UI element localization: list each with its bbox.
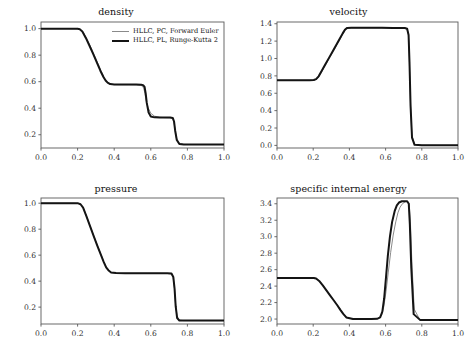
y-tick-label: 2.6 — [260, 265, 272, 274]
legend-label: HLLC, PL, Runge-Kutta 2 — [133, 35, 218, 45]
x-tick-label: 0.8 — [181, 153, 193, 162]
y-tick-label: 0.0 — [260, 141, 272, 150]
x-tick-label: 0.4 — [108, 329, 120, 338]
y-tick-label: 1.2 — [260, 37, 272, 46]
legend: HLLC, PC, Forward Euler HLLC, PL, Runge-… — [112, 27, 219, 45]
x-tick-label: 0.4 — [108, 153, 120, 162]
data-series-line — [277, 201, 458, 319]
y-tick-label: 1.0 — [24, 24, 36, 33]
data-series-line — [41, 29, 224, 145]
panel-specific-internal-energy: specific internal energy 0.00.20.40.60.8… — [232, 177, 465, 353]
x-tick-label: 0.4 — [343, 153, 355, 162]
x-tick-label: 0.6 — [380, 329, 392, 338]
y-tick-label: 2.4 — [260, 282, 272, 291]
x-tick-label: 1.0 — [218, 153, 230, 162]
x-tick-label: 0.0 — [35, 329, 47, 338]
y-tick-label: 0.2 — [24, 130, 36, 139]
y-tick-label: 0.6 — [24, 77, 36, 86]
y-tick-label: 1.0 — [24, 199, 36, 208]
x-tick-label: 0.6 — [145, 329, 157, 338]
panel-pressure: pressure 0.00.20.40.60.81.00.20.40.60.81… — [0, 177, 232, 353]
y-tick-label: 2.8 — [260, 249, 272, 258]
y-tick-label: 1.0 — [260, 54, 272, 63]
x-tick-label: 0.8 — [416, 153, 428, 162]
plot-svg-velocity: 0.00.20.40.60.81.00.00.20.40.60.81.01.21… — [232, 0, 465, 177]
y-tick-label: 0.8 — [24, 225, 36, 234]
data-series-line — [41, 29, 224, 145]
y-tick-label: 0.4 — [24, 104, 36, 113]
plot-svg-specific-internal-energy: 0.00.20.40.60.81.02.02.22.42.62.83.03.23… — [232, 177, 465, 353]
x-tick-label: 0.6 — [380, 153, 392, 162]
figure-grid: density 0.00.20.40.60.81.00.20.40.60.81.… — [0, 0, 465, 353]
data-series-line — [277, 28, 458, 145]
plot-specific-internal-energy: 0.00.20.40.60.81.02.02.22.42.62.83.03.23… — [232, 177, 465, 353]
panel-density: density 0.00.20.40.60.81.00.20.40.60.81.… — [0, 0, 232, 177]
x-tick-label: 0.0 — [35, 153, 47, 162]
data-series-line — [41, 203, 224, 320]
x-tick-label: 1.0 — [452, 329, 464, 338]
x-tick-label: 0.2 — [307, 329, 319, 338]
x-tick-label: 1.0 — [452, 153, 464, 162]
x-tick-label: 1.0 — [218, 329, 230, 338]
x-tick-label: 0.4 — [343, 329, 355, 338]
x-tick-label: 0.2 — [307, 153, 319, 162]
x-tick-label: 0.6 — [145, 153, 157, 162]
legend-swatch-line-icon — [112, 40, 129, 42]
y-tick-label: 1.4 — [260, 19, 272, 28]
x-tick-label: 0.0 — [271, 329, 283, 338]
y-tick-label: 0.4 — [260, 106, 272, 115]
data-series-line — [277, 201, 458, 320]
y-tick-label: 0.2 — [260, 124, 272, 133]
y-tick-label: 0.4 — [24, 277, 36, 286]
plot-velocity: 0.00.20.40.60.81.00.00.20.40.60.81.01.21… — [232, 0, 465, 177]
panel-velocity: velocity 0.00.20.40.60.81.00.00.20.40.60… — [232, 0, 465, 177]
y-tick-label: 2.0 — [260, 315, 272, 324]
y-tick-label: 3.0 — [260, 232, 272, 241]
data-series-line — [41, 203, 224, 320]
legend-entry: HLLC, PL, Runge-Kutta 2 — [112, 36, 219, 45]
y-tick-label: 0.8 — [260, 72, 272, 81]
plot-pressure: 0.00.20.40.60.81.00.20.40.60.81.0 — [0, 177, 232, 353]
y-tick-label: 3.4 — [260, 199, 272, 208]
data-series-line — [277, 28, 458, 145]
plot-svg-pressure: 0.00.20.40.60.81.00.20.40.60.81.0 — [0, 177, 232, 353]
y-tick-label: 2.2 — [260, 298, 272, 307]
y-tick-label: 0.6 — [24, 251, 36, 260]
x-tick-label: 0.8 — [416, 329, 428, 338]
y-tick-label: 0.2 — [24, 303, 36, 312]
y-tick-label: 3.2 — [260, 216, 272, 225]
y-tick-label: 0.8 — [24, 51, 36, 60]
x-tick-label: 0.0 — [271, 153, 283, 162]
y-tick-label: 0.6 — [260, 89, 272, 98]
x-tick-label: 0.2 — [72, 329, 84, 338]
x-tick-label: 0.2 — [72, 153, 84, 162]
legend-swatch-line-icon — [112, 31, 129, 32]
x-tick-label: 0.8 — [181, 329, 193, 338]
